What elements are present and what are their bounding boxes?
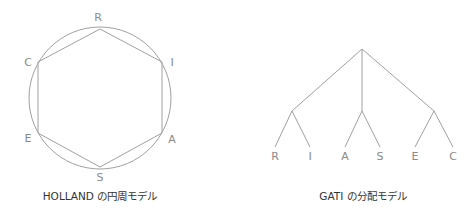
holland-label-e: E <box>25 132 32 145</box>
gati-branch-2 <box>362 49 434 111</box>
gati-label-s: S <box>377 150 384 163</box>
gati-branch-0 <box>292 49 362 111</box>
holland-circle <box>29 27 171 169</box>
gati-leaf-line-a <box>345 111 362 147</box>
gati-label-i: I <box>308 150 311 163</box>
holland-caption: HOLLAND の円周モデル <box>43 188 158 203</box>
gati-label-r: R <box>271 150 279 163</box>
holland-label-s: S <box>97 171 104 184</box>
holland-label-c: C <box>24 56 32 69</box>
gati-leaf-line-i <box>292 111 310 147</box>
gati-label-c: C <box>449 150 457 163</box>
holland-hexagon <box>38 29 162 167</box>
diagram-canvas: RIASECRIASEC <box>0 0 471 215</box>
gati-leaf-line-r <box>275 111 292 147</box>
holland-label-i: I <box>170 56 173 69</box>
holland-label-r: R <box>94 11 102 24</box>
gati-label-a: A <box>341 150 349 163</box>
gati-caption: GATI の分配モデル <box>319 188 406 203</box>
holland-label-a: A <box>168 133 176 146</box>
gati-label-e: E <box>412 150 419 163</box>
gati-leaf-line-s <box>362 111 380 147</box>
gati-leaf-line-c <box>434 111 453 147</box>
gati-leaf-line-e <box>415 111 434 147</box>
